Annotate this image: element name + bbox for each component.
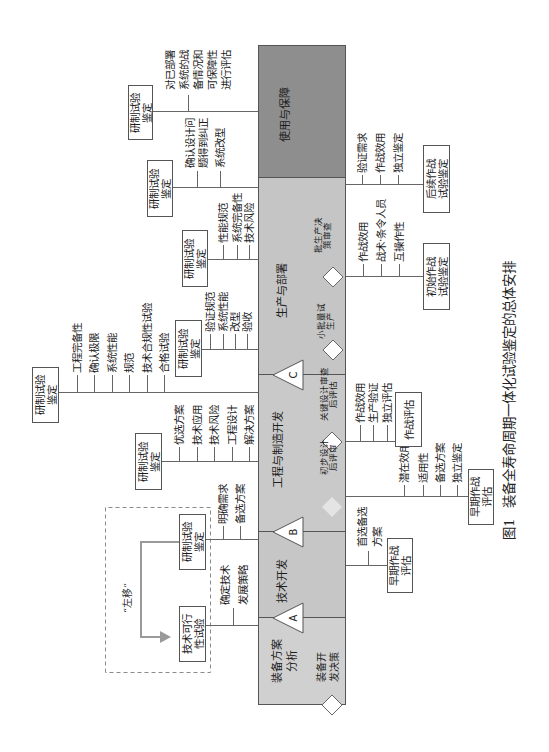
decision-label-line: 策审查 — [323, 195, 332, 275]
decision-label-lrip: 小批量试 生产 — [317, 281, 335, 361]
dt-box-technology-feasibility-test: 技术可行 性试验 — [179, 606, 206, 662]
ot-box-follow-on-operational-test: 后续作战 试验鉴定 — [423, 145, 450, 213]
box-line: 研制试验 — [148, 169, 160, 209]
box-line: 研制试验 — [129, 93, 141, 133]
ot-box-operational-assessment: 作战评估 — [395, 392, 422, 447]
dt-item-text: 工程完备性 — [71, 323, 83, 373]
dt-box-development-test: 研制试验 鉴定 — [128, 85, 153, 140]
dt-item-text: 解决方案 — [243, 405, 255, 445]
dt-item-text: 改型 — [229, 312, 241, 332]
ot-item-text: 验证需求 — [356, 133, 368, 173]
shift-left-label: “左移” — [122, 583, 134, 613]
box-line: 鉴定 — [46, 385, 58, 405]
ot-item-text: 战术·条令人员 — [375, 199, 387, 262]
dt-item-text: 系统完备性 — [231, 193, 243, 243]
box-line: 试验鉴定 — [437, 257, 449, 297]
shift-left-arrow-line — [141, 542, 179, 637]
dt-item-text: 技术应用 — [191, 405, 203, 445]
dt-item-text: 确认设计问 — [184, 118, 196, 168]
lifecycle-test-evaluation-diagram: 装备方案 分析 技术开发 工程与制造开发 生产与部署 使用与保障 A B C 装… — [0, 0, 549, 752]
dt-item-text: 技术风险 — [208, 405, 220, 445]
figure-title: 装备全寿命周期一体化试验鉴定的总体安排 — [501, 261, 517, 508]
decision-label-line: 后评估 — [329, 354, 338, 434]
dt-item-text: 进行评估 — [220, 50, 232, 90]
decision-label-full-rate-production: 批生产决 策审查 — [314, 195, 332, 275]
ot-item-text: 独立鉴定 — [451, 443, 463, 483]
dt-box-development-test: 研制试验 鉴定 — [147, 160, 173, 217]
box-line: 初始作战 — [425, 257, 437, 297]
ot-item-text: 备选方案 — [434, 443, 446, 483]
dt-item-text: 验证规范 — [204, 292, 216, 332]
dt-item-text: 系统性能 — [106, 333, 118, 373]
dt-box-development-test: 研制试验 鉴定 — [135, 433, 162, 490]
dt-item-text: 系统性能 — [217, 292, 229, 332]
dt-item-text: 技术合规性试验 — [141, 303, 153, 373]
milestone-b-label: B — [288, 522, 300, 542]
dt-item-text: 发展策略 — [237, 565, 249, 605]
box-line: 早期作战 — [469, 477, 481, 517]
dt-item-text: 工程设计 — [226, 405, 238, 445]
decision-label-line: 装备开 — [315, 627, 328, 707]
dt-box-development-test: 研制试验 鉴定 — [179, 514, 206, 570]
dt-item-text: 系统的战 — [178, 50, 190, 90]
decision-label-material-development: 装备开 发决策 — [315, 627, 341, 707]
dt-item-text: 性能规范 — [217, 203, 229, 243]
dt-item-text: 对已部署 — [164, 50, 176, 90]
box-line: 研制试验 — [34, 375, 46, 415]
dt-item-text: 明确需求 — [217, 484, 229, 524]
decision-label-line: 发决策 — [328, 627, 341, 707]
dt-item-text: 技术风险 — [243, 203, 255, 243]
box-line: 早期作战 — [388, 546, 400, 586]
box-line: 作战评估 — [403, 400, 415, 440]
box-line: 鉴定 — [149, 452, 161, 472]
dt-item-text: 可保障性 — [206, 50, 218, 90]
box-line: 鉴定 — [189, 339, 201, 359]
dt-item-text: 验收 — [241, 312, 253, 332]
dt-item-text: 备选方案 — [234, 484, 246, 524]
box-line: 研制试验 — [181, 522, 193, 562]
shift-left-arrowhead-icon — [160, 631, 171, 643]
box-line: 性试验 — [193, 619, 205, 649]
box-line: 技术可行 — [181, 614, 193, 654]
ot-item-text: 作战效用 — [374, 133, 386, 173]
box-line: 鉴定 — [141, 103, 153, 123]
ot-item-text: 互操作性 — [393, 222, 405, 262]
dt-item-text: 规范 — [123, 353, 135, 373]
milestone-a-label: A — [288, 608, 300, 628]
ot-item-text: 适用性 — [417, 453, 429, 483]
box-line: 研制试验 — [177, 329, 189, 369]
ot-item-text: 潜在效用 — [398, 443, 410, 483]
box-line: 研制试验 — [137, 442, 149, 482]
milestone-c-label: C — [288, 365, 300, 385]
ot-item-text: 独立评估 — [381, 383, 393, 423]
ot-item-text: 作战效用 — [357, 222, 369, 262]
ot-item-text: 首选备选 — [356, 507, 368, 547]
ot-item-text: 方案 — [371, 527, 383, 547]
box-line: 试验鉴定 — [437, 159, 449, 199]
phase-band-operations-support — [258, 45, 346, 178]
box-line: 鉴定 — [160, 179, 172, 199]
ot-item-text: 生产验证 — [367, 383, 379, 423]
decision-label-line: 生产 — [326, 281, 335, 361]
dt-box-development-test: 研制试验 鉴定 — [175, 320, 202, 377]
ot-box-early-operational-assessment: 早期作战 评估 — [468, 469, 494, 525]
ot-item-text: 作战效用 — [354, 383, 366, 423]
decision-label-post-cdr: 关键设计审查 后评估 — [320, 354, 338, 434]
phase-label-engineering-manufacturing: 工程与制造开发 — [271, 389, 286, 509]
phase-label-operations-support: 使用与保障 — [278, 54, 293, 174]
ot-item-text: 独立鉴定 — [392, 133, 404, 173]
box-line: 后续作战 — [425, 159, 437, 199]
dt-item-text: 确定技术 — [219, 565, 231, 605]
box-line: 评估 — [481, 487, 493, 507]
dt-box-development-test: 研制试验 鉴定 — [182, 230, 208, 287]
box-line: 研制试验 — [183, 239, 195, 279]
box-line: 鉴定 — [193, 532, 205, 552]
dt-item-text: 题得到纠正 — [197, 118, 209, 168]
dt-item-text: 优选方案 — [173, 405, 185, 445]
ot-box-initial-operational-test: 初始作战 试验鉴定 — [423, 243, 450, 310]
dt-item-text: 合格试验 — [158, 333, 170, 373]
dt-item-text: 系统改型 — [214, 128, 226, 168]
box-line: 评估 — [400, 556, 412, 576]
box-line: 鉴定 — [195, 249, 207, 269]
phase-label-production-deployment: 生产与部署 — [275, 230, 290, 350]
